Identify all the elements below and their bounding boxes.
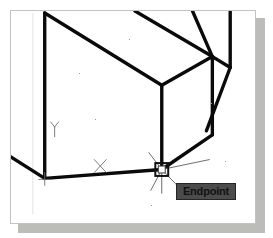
edge-right-lower-slant <box>206 67 230 130</box>
endpoint-osnap-tooltip-label: Endpoint <box>183 186 229 197</box>
endpoint-osnap-tooltip: Endpoint <box>176 183 236 200</box>
scan-speckle <box>207 51 208 52</box>
x-axis-marker <box>94 160 106 173</box>
scan-speckle <box>225 161 226 162</box>
edge-top-face-right <box>162 57 213 86</box>
edge-top-face-front-left <box>45 13 162 85</box>
scan-speckle <box>211 103 212 104</box>
scan-speckle <box>95 119 96 120</box>
edge-bottom-front <box>45 170 162 179</box>
scan-speckle <box>151 205 152 206</box>
screenshot-root: Endpoint <box>0 0 273 238</box>
scan-speckle <box>129 39 130 40</box>
wireframe-geometry <box>11 11 230 178</box>
edge-bottom-left-slope <box>11 156 45 179</box>
scan-speckle <box>79 73 80 74</box>
y-axis-marker <box>51 122 59 137</box>
edge-right-slant <box>212 57 230 68</box>
